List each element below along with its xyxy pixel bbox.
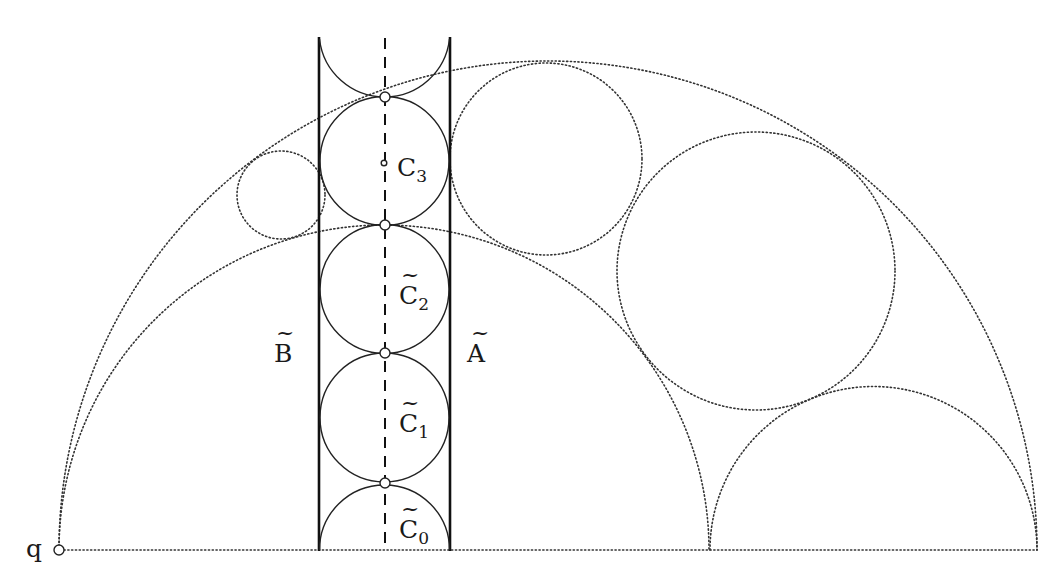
tangent-point bbox=[380, 220, 390, 230]
label-q: q bbox=[26, 534, 42, 563]
small-left-circle bbox=[237, 151, 325, 239]
center-point-C3 bbox=[381, 160, 387, 166]
label-B-tilde: B bbox=[274, 339, 292, 368]
label-C0-tilde: C0 bbox=[399, 515, 429, 548]
large-right-circle bbox=[617, 132, 895, 410]
geometry-diagram: q C3 ~ C2 ~ B ~ A ~ C1 ~ C0 bbox=[0, 0, 1057, 578]
bottom-right-semicircle bbox=[710, 387, 1037, 550]
tangent-point bbox=[380, 478, 390, 488]
tangent-point bbox=[380, 348, 390, 358]
label-C1-tilde: C1 bbox=[399, 409, 429, 442]
tangent-point bbox=[380, 92, 390, 102]
upper-middle-circle bbox=[450, 63, 642, 255]
label-C3: C3 bbox=[397, 153, 427, 186]
label-C2-tilde: C2 bbox=[399, 281, 429, 314]
label-A-tilde: A bbox=[466, 339, 486, 368]
point-q bbox=[54, 545, 64, 555]
